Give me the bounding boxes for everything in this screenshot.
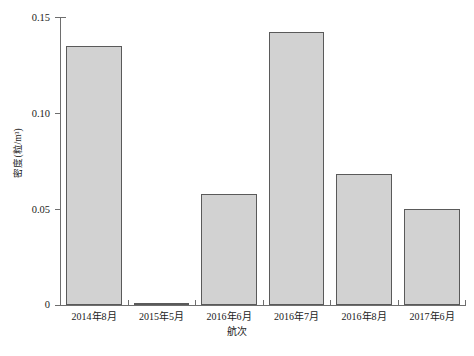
x-tick-label-0: 2014年8月 [60,311,128,323]
x-tick-sep-5 [398,300,399,306]
x-tick-sep-0 [60,300,61,306]
y-tick-label-0: 0 [45,300,50,310]
bar-2016-06[interactable] [201,194,257,305]
x-tick-sep-3 [263,300,264,306]
x-tick-label-1: 2015年5月 [128,311,195,323]
x-axis-right-cap [465,300,466,306]
x-tick-label-2: 2016年6月 [195,311,263,323]
x-tick-sep-1 [128,300,129,306]
bar-2017-06[interactable] [404,209,460,305]
x-tick-label-5: 2017年6月 [398,311,466,323]
y-axis-line [60,17,61,306]
y-tick-mark-0.15 [55,17,60,18]
bar-chart-figure: 0.15 0.10 0.05 0 密度(粒/m³) 2014年8月 2015年5… [0,0,474,356]
bar-2016-07[interactable] [269,32,324,305]
y-tick-mark-0.10 [55,113,60,114]
y-tick-label-0.15: 0.15 [32,13,50,23]
y-axis-title: 密度(粒/m³) [13,115,23,191]
x-tick-sep-4 [330,300,331,306]
bar-2015-05[interactable] [134,303,189,305]
y-tick-label-0.10: 0.10 [32,109,50,119]
y-tick-label-0.05: 0.05 [32,205,50,215]
y-axis-top-cap [60,17,66,18]
x-tick-label-3: 2016年7月 [263,311,330,323]
x-tick-sep-2 [195,300,196,306]
x-axis-title: 航次 [0,326,474,338]
bar-2016-08[interactable] [336,174,392,305]
x-tick-label-4: 2016年8月 [330,311,398,323]
bar-2014-08[interactable] [66,46,122,305]
y-tick-mark-0.05 [55,209,60,210]
